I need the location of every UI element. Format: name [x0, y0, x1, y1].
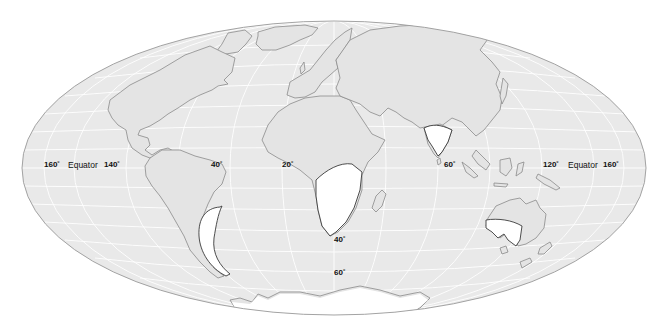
java	[494, 183, 508, 187]
tasmania	[500, 246, 508, 254]
label-lat-60: 60˚	[334, 269, 346, 277]
label-right-120: 120˚	[543, 161, 559, 169]
label-left-160: 160˚	[44, 161, 60, 169]
label-left-equator: Equator	[68, 161, 98, 170]
label-lon-40: 40˚	[211, 161, 223, 169]
label-lon-60: 60˚	[444, 161, 456, 169]
label-right-160: 160˚	[603, 161, 619, 169]
label-right-equator: Equator	[568, 161, 598, 170]
label-lat-40: 40˚	[334, 236, 346, 244]
label-lon-20: 20˚	[282, 161, 294, 169]
label-left-140: 140˚	[104, 161, 120, 169]
